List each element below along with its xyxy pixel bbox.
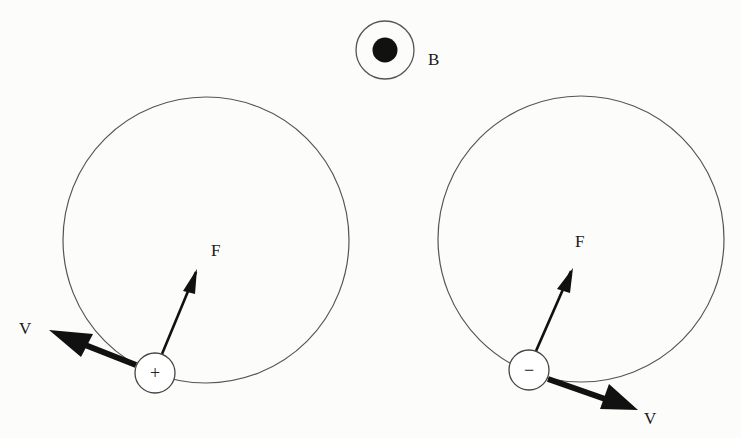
positive-charge-system: F V +: [19, 97, 349, 393]
negative-charge-system: F V −: [438, 96, 724, 428]
positive-orbit: [63, 97, 349, 383]
magnetic-field-symbol: B: [356, 21, 439, 79]
negative-sign-icon: −: [524, 360, 534, 380]
negative-force-label: F: [575, 232, 584, 251]
magnetic-force-diagram: B F V + F V −: [0, 0, 741, 438]
positive-velocity-label: V: [19, 319, 32, 338]
field-dot-icon: [373, 38, 398, 63]
positive-velocity-arrowhead: [49, 330, 93, 357]
positive-force-arrowhead: [183, 269, 197, 294]
field-label: B: [428, 50, 439, 69]
negative-velocity-label: V: [644, 409, 657, 428]
negative-velocity-arrowhead: [600, 384, 638, 410]
positive-force-label: F: [211, 241, 220, 260]
positive-sign-icon: +: [150, 363, 160, 383]
negative-force-arrowhead: [557, 268, 573, 293]
